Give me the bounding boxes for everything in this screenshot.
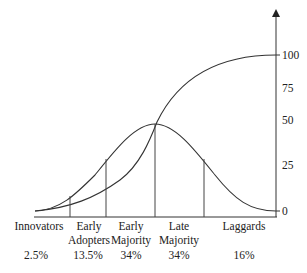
label-late-majority-2: Majority (156, 234, 202, 247)
label-late-majority-1: Late (156, 220, 202, 233)
label-early-adopters-2: Adopters (66, 234, 112, 247)
y-tick-25: 25 (282, 159, 294, 172)
y-tick-0: 0 (282, 205, 288, 218)
y-tick-100: 100 (282, 49, 299, 62)
label-early-majority-2: Majority (108, 234, 154, 247)
axis-arrow-icon (272, 9, 280, 17)
pct-early-majority: 34% (116, 249, 146, 262)
label-innovators: Innovators (14, 220, 64, 233)
pct-early-adopters: 13.5% (70, 249, 106, 262)
label-early-majority-1: Early (108, 220, 154, 233)
pct-innovators: 2.5% (20, 249, 52, 262)
label-laggards: Laggards (216, 220, 272, 233)
y-tick-50: 50 (282, 114, 294, 127)
pct-laggards: 16% (229, 249, 259, 262)
pct-late-majority: 34% (164, 249, 194, 262)
label-early-adopters-1: Early (68, 220, 110, 233)
y-tick-75: 75 (282, 82, 294, 95)
